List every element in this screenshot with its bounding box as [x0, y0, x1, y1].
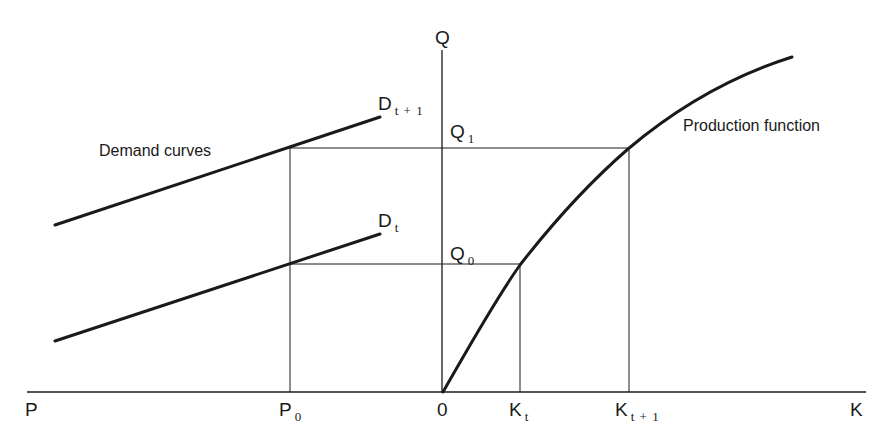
q-axis-label: Q	[435, 28, 450, 47]
demand-curve-dt	[55, 234, 380, 341]
kt1-label: Kt + 1	[615, 400, 660, 419]
q1-sub: 1	[468, 131, 476, 146]
q0-label: Q0	[450, 244, 475, 263]
diagram-canvas	[0, 0, 887, 445]
dt1-main: D	[378, 93, 392, 114]
production-function-caption: Production function	[683, 118, 820, 134]
origin-label: 0	[437, 400, 448, 419]
production-function-curve	[443, 57, 792, 392]
q0-main: Q	[450, 243, 465, 264]
dt-label: Dt	[378, 211, 399, 230]
q0-sub: 0	[468, 253, 476, 268]
investment-diagram: Q P K 0 P0 Kt Kt + 1 Q1 Q0 Dt + 1 Dt Dem…	[0, 0, 887, 445]
k-axis-label: K	[850, 400, 863, 419]
p0-label: P0	[279, 400, 302, 419]
q1-label: Q1	[450, 122, 475, 141]
demand-curves-caption: Demand curves	[99, 143, 211, 159]
p0-sub: 0	[295, 409, 303, 424]
dt-sub: t	[395, 220, 400, 235]
kt1-main: K	[615, 399, 628, 420]
kt1-sub: t + 1	[631, 409, 660, 424]
p0-main: P	[279, 399, 292, 420]
dt-main: D	[378, 210, 392, 231]
p-axis-label: P	[25, 400, 38, 419]
kt-label: Kt	[509, 400, 529, 419]
q1-main: Q	[450, 121, 465, 142]
kt-main: K	[509, 399, 522, 420]
dt1-label: Dt + 1	[378, 94, 424, 113]
dt1-sub: t + 1	[395, 103, 424, 118]
kt-sub: t	[525, 409, 530, 424]
demand-curve-dt1	[55, 117, 380, 225]
